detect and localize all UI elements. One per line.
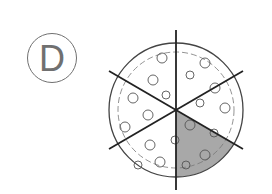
pizza-diagram — [0, 0, 272, 194]
cut-lines — [109, 30, 243, 190]
